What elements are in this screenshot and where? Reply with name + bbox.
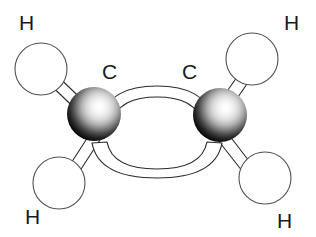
atom-hydrogen-bottom-right [239,152,291,204]
label-carbon-right: C [182,61,197,82]
atom-carbon-right [193,88,247,142]
molecule-diagram-svg [0,0,316,237]
atom-hydrogen-top-left [15,43,67,95]
label-hydrogen-bottom-right: H [277,210,292,231]
atom-carbon-left [67,87,121,141]
atom-hydrogen-bottom-left [33,157,85,209]
label-carbon-left: C [102,61,117,82]
label-hydrogen-top-right: H [284,12,299,33]
molecule-figure: H H H H C C [0,0,316,237]
label-hydrogen-bottom-left: H [25,206,40,227]
atom-hydrogen-top-right [226,33,278,85]
bond-c1-c2-lower [92,142,222,178]
label-hydrogen-top-left: H [19,12,34,33]
